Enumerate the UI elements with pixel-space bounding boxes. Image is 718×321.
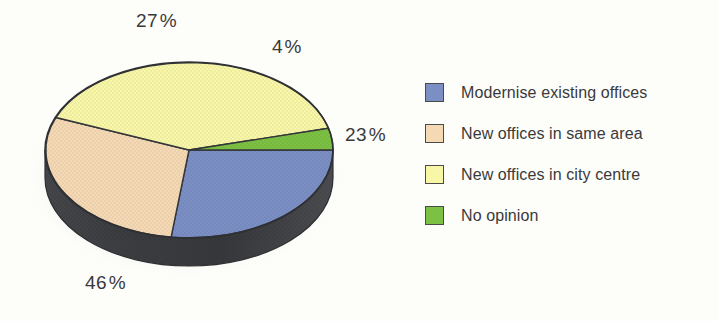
pie-label-value-yellow: 27	[136, 10, 158, 31]
pie-label-value-blue: 23	[345, 124, 367, 145]
percent-sign-yellow: %	[160, 10, 177, 31]
legend-item-new-offices-in-city-centre[interactable]: New offices in city centre	[425, 154, 710, 195]
percent-sign-green: %	[285, 36, 302, 57]
percent-sign-peach: %	[109, 272, 126, 293]
legend-label-new-offices-in-same-area: New offices in same area	[461, 125, 643, 143]
legend-label-modernise-existing-offices: Modernise existing offices	[461, 84, 647, 102]
legend-swatch-peach-icon	[425, 124, 444, 143]
pie-label-new-offices-in-same-area: 46%	[85, 272, 126, 294]
legend-label-new-offices-in-city-centre: New offices in city centre	[461, 166, 640, 184]
legend-item-new-offices-in-same-area[interactable]: New offices in same area	[425, 113, 710, 154]
pie-label-modernise-existing-offices: 23%	[345, 124, 386, 146]
legend-item-modernise-existing-offices[interactable]: Modernise existing offices	[425, 72, 710, 113]
pie-label-no-opinion: 4%	[272, 36, 302, 58]
chart-legend: Modernise existing offices New offices i…	[425, 72, 710, 236]
pie-chart-graphic	[0, 0, 420, 321]
pie-slices	[46, 63, 333, 238]
pie-label-new-offices-in-city-centre: 27%	[136, 10, 177, 32]
legend-item-no-opinion[interactable]: No opinion	[425, 195, 710, 236]
pie-chart-figure: 27% 4% 23% 46% Modernise existing office…	[0, 0, 718, 321]
chart-area: 27% 4% 23% 46%	[0, 0, 420, 321]
legend-swatch-green-icon	[425, 206, 444, 225]
legend-swatch-yellow-icon	[425, 165, 444, 184]
percent-sign-blue: %	[369, 124, 386, 145]
pie-label-value-peach: 46	[85, 272, 107, 293]
pie-label-value-green: 4	[272, 36, 283, 57]
legend-label-no-opinion: No opinion	[461, 207, 539, 225]
legend-swatch-blue-icon	[425, 83, 444, 102]
